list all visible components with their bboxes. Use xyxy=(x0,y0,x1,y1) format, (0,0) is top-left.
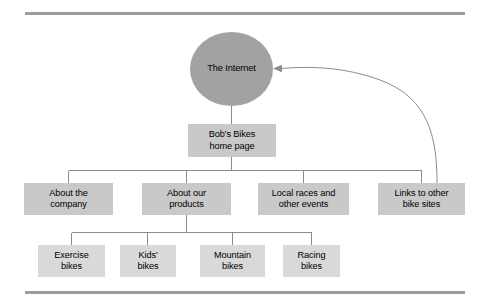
arrowhead-into-internet xyxy=(273,65,282,72)
node-mountain-bikes-label: Mountain bikes xyxy=(214,250,251,272)
node-about-the-company[interactable]: About the company xyxy=(24,183,113,215)
node-mountain-bikes[interactable]: Mountain bikes xyxy=(200,245,265,277)
node-racing-bikes-label: Racing bikes xyxy=(298,250,326,272)
node-about-our-products[interactable]: About our products xyxy=(142,183,231,215)
node-home-page[interactable]: Bob's Bikes home page xyxy=(188,124,276,157)
node-internet-label: The Internet xyxy=(207,63,255,74)
node-local-races-and-other-events[interactable]: Local races and other events xyxy=(258,183,349,215)
curved-arrow-links-to-internet xyxy=(281,67,437,183)
node-kids-bikes-label: Kids' bikes xyxy=(138,250,159,272)
node-exercise-bikes[interactable]: Exercise bikes xyxy=(38,245,105,277)
node-exercise-bikes-label: Exercise bikes xyxy=(54,250,88,272)
node-home-page-label: Bob's Bikes home page xyxy=(209,129,256,151)
node-links-to-other-bike-sites-label: Links to other bike sites xyxy=(395,188,449,210)
bottom-rule xyxy=(25,291,465,294)
node-links-to-other-bike-sites[interactable]: Links to other bike sites xyxy=(378,183,465,215)
diagram-canvas: The Internet Bob's Bikes home page About… xyxy=(0,0,479,306)
node-racing-bikes[interactable]: Racing bikes xyxy=(283,245,340,277)
node-local-races-and-other-events-label: Local races and other events xyxy=(272,188,335,210)
node-internet[interactable]: The Internet xyxy=(190,32,273,106)
top-rule xyxy=(25,12,465,15)
node-kids-bikes[interactable]: Kids' bikes xyxy=(120,245,176,277)
node-about-our-products-label: About our products xyxy=(167,188,206,210)
node-about-the-company-label: About the company xyxy=(49,188,87,210)
